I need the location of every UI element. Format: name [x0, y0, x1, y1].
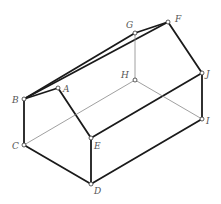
- edge-FJ: [168, 22, 202, 73]
- edge-BF: [24, 22, 168, 99]
- vertices-layer: [22, 20, 204, 186]
- diagram-svg: ABCDEFGHIJ: [0, 0, 221, 204]
- vertex-label-E: E: [93, 141, 101, 151]
- vertex-label-I: I: [205, 116, 210, 126]
- vertex-F: [166, 20, 170, 24]
- house-prism-diagram: ABCDEFGHIJ: [0, 0, 221, 204]
- vertex-label-A: A: [62, 84, 70, 94]
- vertex-label-H: H: [120, 70, 129, 80]
- vertex-label-F: F: [174, 14, 182, 24]
- edge-AE: [58, 88, 91, 138]
- vertex-H: [133, 78, 137, 82]
- vertex-label-D: D: [93, 186, 101, 196]
- vertex-C: [22, 143, 26, 147]
- vertex-label-G: G: [126, 20, 133, 30]
- vertex-B: [22, 97, 26, 101]
- edge-CD: [24, 145, 91, 184]
- vertex-A: [56, 86, 60, 90]
- vertex-label-B: B: [11, 95, 19, 105]
- vertex-D: [89, 182, 93, 186]
- vertex-E: [89, 136, 93, 140]
- edge-HI: [135, 80, 202, 119]
- edges-layer: [24, 22, 202, 184]
- vertex-G: [133, 31, 137, 35]
- vertex-label-J: J: [204, 69, 211, 79]
- vertex-I: [200, 117, 204, 121]
- vertex-J: [200, 71, 204, 75]
- vertex-label-C: C: [12, 141, 19, 151]
